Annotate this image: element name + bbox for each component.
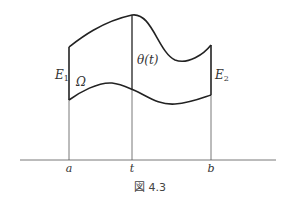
tick-label-a: a (66, 162, 73, 175)
figure-caption: 図 4.3 (134, 181, 166, 194)
figure-diagram: E1 Ω θ(t) E2 a t b 図 4.3 (0, 0, 291, 203)
bottom-boundary-curve (69, 83, 211, 104)
label-omega: Ω (75, 75, 86, 89)
tick-label-t: t (130, 162, 135, 175)
label-theta-t: θ(t) (137, 53, 159, 67)
label-E2: E2 (214, 68, 229, 83)
tick-label-b: b (207, 162, 214, 175)
label-E1: E1 (54, 68, 69, 83)
